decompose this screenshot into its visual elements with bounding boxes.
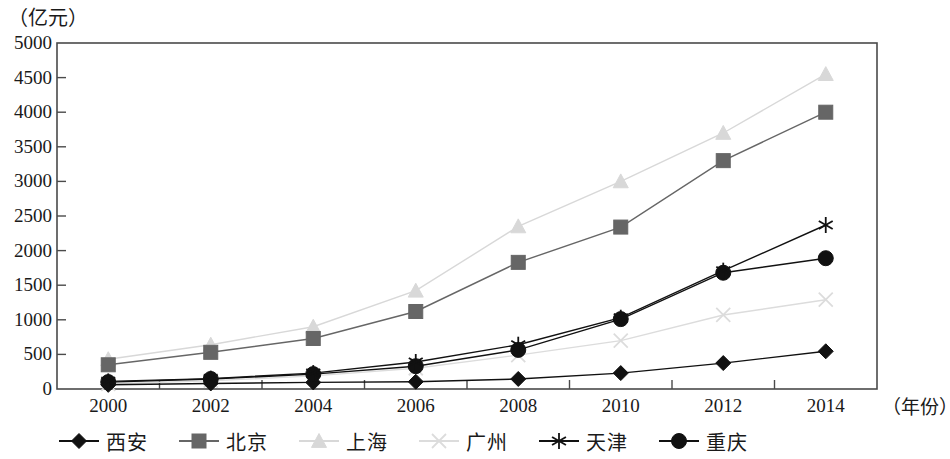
data-point-cross (614, 334, 628, 348)
legend-item-上海[interactable]: 上海 (297, 427, 387, 456)
data-point-triangle (511, 219, 526, 233)
y-tick-label: 0 (0, 379, 52, 398)
chart-legend: 西安北京上海广州天津重庆 (57, 424, 877, 458)
data-point-square (306, 331, 320, 345)
legend-label: 广州 (466, 427, 507, 456)
data-point-square (409, 304, 423, 318)
data-point-triangle (716, 125, 731, 139)
data-point-diamond (408, 374, 423, 389)
series-上海 (101, 67, 834, 366)
y-tick-label: 5000 (0, 33, 52, 52)
data-point-square (192, 434, 206, 448)
y-tick-label: 3000 (0, 171, 52, 190)
y-tick-label: 2500 (0, 206, 52, 225)
legend-marker-asterisk-icon (537, 431, 581, 451)
data-point-square (204, 345, 218, 359)
data-point-square (716, 154, 730, 168)
y-tick-label: 4000 (0, 102, 52, 121)
x-tick-label: 2000 (68, 396, 148, 415)
x-tick-label: 2010 (581, 396, 661, 415)
data-point-square (511, 255, 525, 269)
y-tick-label: 1500 (0, 275, 52, 294)
legend-marker-circle-icon (657, 431, 701, 451)
legend-item-北京[interactable]: 北京 (177, 427, 267, 456)
x-tick-label: 2012 (683, 396, 763, 415)
series-line (108, 300, 826, 384)
legend-item-重庆[interactable]: 重庆 (657, 427, 747, 456)
x-tick-label: 2006 (376, 396, 456, 415)
data-point-diamond (716, 356, 731, 371)
x-tick-label: 2002 (171, 396, 251, 415)
data-point-triangle (408, 283, 423, 297)
plot-frame (57, 43, 877, 389)
data-point-triangle (818, 67, 833, 81)
legend-label: 天津 (586, 427, 627, 456)
x-tick-label: 2004 (273, 396, 353, 415)
y-tick-label: 1000 (0, 310, 52, 329)
data-point-circle (672, 434, 687, 449)
legend-marker-square-icon (177, 431, 221, 451)
legend-marker-cross-icon (417, 431, 461, 451)
data-point-diamond (72, 434, 87, 449)
y-tick-label: 500 (0, 344, 52, 363)
legend-marker-diamond-icon (57, 431, 101, 451)
y-tick-label: 2000 (0, 241, 52, 260)
data-point-square (614, 220, 628, 234)
legend-label: 北京 (226, 427, 267, 456)
legend-label: 西安 (106, 427, 147, 456)
data-point-diamond (613, 366, 628, 381)
data-point-asterisk (819, 217, 833, 233)
data-point-diamond (511, 371, 526, 386)
y-tick-label: 4500 (0, 68, 52, 87)
x-tick-label: 2014 (786, 396, 866, 415)
data-point-diamond (818, 344, 833, 359)
legend-item-西安[interactable]: 西安 (57, 427, 147, 456)
series-北京 (101, 105, 833, 372)
series-line (108, 112, 826, 365)
legend-item-天津[interactable]: 天津 (537, 427, 627, 456)
x-tick-label: 2008 (478, 396, 558, 415)
data-point-triangle (613, 174, 628, 188)
legend-marker-triangle-icon (297, 431, 341, 451)
data-point-square (101, 358, 115, 372)
legend-label: 上海 (346, 427, 387, 456)
legend-label: 重庆 (706, 427, 747, 456)
data-point-circle (818, 251, 833, 266)
legend-item-广州[interactable]: 广州 (417, 427, 507, 456)
y-tick-label: 3500 (0, 137, 52, 156)
data-point-square (819, 105, 833, 119)
